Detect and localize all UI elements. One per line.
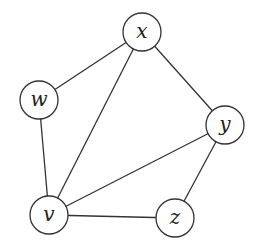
node-x-label: x bbox=[136, 19, 147, 43]
edges-layer bbox=[39, 32, 225, 218]
node-v-label: v bbox=[43, 202, 55, 226]
node-w-label: w bbox=[30, 87, 47, 111]
node-v: v bbox=[30, 196, 68, 234]
node-x: x bbox=[123, 13, 161, 51]
edge-x-v bbox=[49, 32, 142, 215]
node-w: w bbox=[20, 81, 58, 119]
graph-diagram: x w y v z bbox=[0, 0, 255, 251]
node-z-label: z bbox=[169, 205, 181, 229]
node-z: z bbox=[156, 199, 194, 237]
node-y: y bbox=[206, 106, 244, 144]
edge-y-v bbox=[49, 125, 225, 215]
nodes-layer: x w y v z bbox=[20, 13, 244, 237]
node-y-label: y bbox=[218, 112, 231, 136]
